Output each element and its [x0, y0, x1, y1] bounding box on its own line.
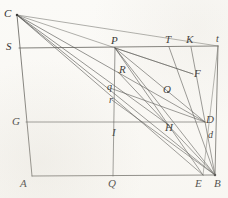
line-r-B: [112, 100, 215, 175]
vertex-dot-C: [16, 14, 19, 17]
point-label-B: B: [214, 178, 221, 189]
line-S-t: [19, 46, 218, 48]
point-label-F: F: [194, 68, 201, 79]
line-t-B: [215, 46, 218, 175]
point-label-Q: Q: [108, 178, 116, 189]
line-P-Q: [113, 48, 115, 176]
geometry-canvas: [0, 0, 228, 198]
point-label-t: t: [216, 34, 219, 44]
line-C-H: [17, 15, 170, 126]
geometry-figure: CSPTKtRqrOFGIHDdAQEB: [0, 0, 228, 198]
point-label-R: R: [119, 64, 126, 75]
line-T-B: [169, 47, 215, 175]
point-label-K: K: [186, 34, 193, 45]
line-A-B: [32, 175, 215, 176]
vertex-dot-B: [214, 174, 217, 177]
point-label-q: q: [107, 82, 112, 92]
point-label-G: G: [12, 116, 20, 127]
point-label-T: T: [165, 34, 171, 45]
point-label-d: d: [208, 130, 213, 140]
point-label-E: E: [195, 178, 202, 189]
point-label-r: r: [109, 95, 113, 105]
point-label-S: S: [6, 41, 12, 52]
line-C-A: [17, 15, 32, 176]
point-label-D: D: [206, 114, 214, 125]
point-label-H: H: [165, 122, 173, 133]
point-label-O: O: [163, 84, 171, 95]
point-label-I: I: [112, 127, 116, 138]
point-label-C: C: [4, 8, 11, 19]
line-P-F: [115, 48, 193, 74]
point-label-P: P: [111, 35, 118, 46]
point-label-A: A: [20, 178, 27, 189]
